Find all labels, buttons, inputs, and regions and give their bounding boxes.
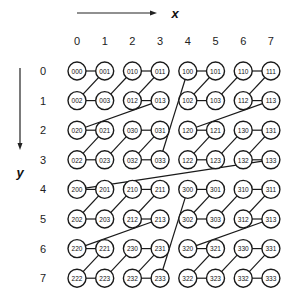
y-tick-2: 2 <box>40 124 46 136</box>
node-210: 210 <box>123 180 141 198</box>
node-023: 023 <box>96 151 114 169</box>
y-axis-arrowhead-icon <box>18 143 23 150</box>
node-label: 002 <box>72 97 83 104</box>
x-axis-ticks: 01234567 <box>74 35 274 47</box>
node-label: 323 <box>210 275 221 282</box>
x-axis: x <box>77 6 179 21</box>
node-label: 230 <box>127 245 138 252</box>
node-label: 212 <box>127 216 138 223</box>
node-label: 202 <box>72 216 83 223</box>
x-axis-arrowhead-icon <box>150 11 157 16</box>
curve-edge <box>77 219 160 249</box>
node-013: 013 <box>151 92 169 110</box>
node-label: 311 <box>266 186 277 193</box>
node-303: 303 <box>207 210 225 228</box>
node-121: 121 <box>207 121 225 139</box>
node-label: 221 <box>99 245 110 252</box>
node-label: 223 <box>99 275 110 282</box>
node-122: 122 <box>179 151 197 169</box>
node-031: 031 <box>151 121 169 139</box>
node-label: 120 <box>182 127 193 134</box>
node-label: 020 <box>72 127 83 134</box>
node-120: 120 <box>179 121 197 139</box>
node-111: 111 <box>262 62 280 80</box>
curve-edge <box>188 101 271 131</box>
node-332: 332 <box>234 269 252 287</box>
z-order-curve-diagram: x y 01234567 01234567 000001010011100101… <box>0 0 302 304</box>
node-label: 300 <box>182 186 193 193</box>
node-label: 203 <box>99 216 110 223</box>
node-020: 020 <box>68 121 86 139</box>
node-label: 021 <box>99 127 110 134</box>
node-330: 330 <box>234 240 252 258</box>
node-011: 011 <box>151 62 169 80</box>
node-232: 232 <box>123 269 141 287</box>
curve-edge <box>160 189 188 278</box>
node-label: 102 <box>182 97 193 104</box>
node-213: 213 <box>151 210 169 228</box>
node-label: 133 <box>265 157 276 164</box>
x-tick-1: 1 <box>102 35 108 47</box>
node-label: 130 <box>238 127 249 134</box>
node-label: 313 <box>265 216 276 223</box>
node-label: 222 <box>72 275 83 282</box>
node-label: 103 <box>210 97 221 104</box>
node-322: 322 <box>179 269 197 287</box>
node-100: 100 <box>179 62 197 80</box>
node-000: 000 <box>68 62 86 80</box>
x-tick-6: 6 <box>240 35 246 47</box>
node-label: 113 <box>266 97 277 104</box>
y-tick-1: 1 <box>40 95 46 107</box>
node-label: 123 <box>210 157 221 164</box>
node-211: 211 <box>151 180 169 198</box>
y-tick-5: 5 <box>40 213 46 225</box>
node-label: 332 <box>238 275 249 282</box>
node-113: 113 <box>262 92 280 110</box>
node-label: 322 <box>182 275 193 282</box>
x-tick-3: 3 <box>157 35 163 47</box>
node-label: 231 <box>155 245 166 252</box>
x-axis-label: x <box>170 6 179 21</box>
node-label: 210 <box>127 186 138 193</box>
node-label: 232 <box>127 275 138 282</box>
node-label: 011 <box>155 68 166 75</box>
node-321: 321 <box>207 240 225 258</box>
node-132: 132 <box>234 151 252 169</box>
node-label: 132 <box>238 157 249 164</box>
curve-edge <box>188 219 271 249</box>
node-label: 111 <box>266 68 276 75</box>
node-label: 302 <box>182 216 193 223</box>
node-333: 333 <box>262 269 280 287</box>
y-tick-7: 7 <box>40 272 46 284</box>
node-201: 201 <box>96 180 114 198</box>
node-220: 220 <box>68 240 86 258</box>
node-label: 012 <box>127 97 138 104</box>
node-010: 010 <box>123 62 141 80</box>
node-label: 331 <box>265 245 276 252</box>
node-label: 003 <box>99 97 110 104</box>
y-tick-3: 3 <box>40 154 46 166</box>
node-101: 101 <box>207 62 225 80</box>
node-label: 201 <box>99 186 110 193</box>
y-tick-6: 6 <box>40 243 46 255</box>
node-label: 213 <box>155 216 166 223</box>
node-311: 311 <box>262 180 280 198</box>
node-label: 301 <box>210 186 221 193</box>
y-axis-label: y <box>15 165 24 180</box>
node-002: 002 <box>68 92 86 110</box>
node-033: 033 <box>151 151 169 169</box>
x-tick-2: 2 <box>129 35 135 47</box>
node-123: 123 <box>207 151 225 169</box>
node-label: 013 <box>155 97 166 104</box>
node-label: 321 <box>210 245 221 252</box>
node-102: 102 <box>179 92 197 110</box>
node-312: 312 <box>234 210 252 228</box>
node-label: 122 <box>182 157 193 164</box>
node-300: 300 <box>179 180 197 198</box>
node-331: 331 <box>262 240 280 258</box>
node-302: 302 <box>179 210 197 228</box>
node-223: 223 <box>96 269 114 287</box>
node-label: 032 <box>127 157 138 164</box>
x-tick-0: 0 <box>74 35 80 47</box>
node-030: 030 <box>123 121 141 139</box>
